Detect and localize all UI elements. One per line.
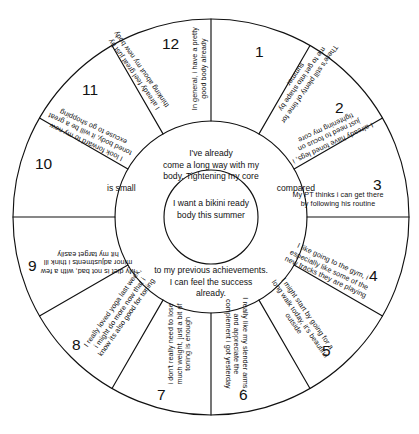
ring-top-line-2: come a long way with my (107, 160, 315, 172)
segment-number-7: 7 (157, 387, 166, 403)
segment-number-8: 8 (72, 337, 81, 353)
core-text: I want a bikini ready body this summer (166, 198, 256, 221)
ring-top-line-4-right: compared (277, 183, 315, 195)
wheel-diagram: 1 2 3 4 5 6 7 8 9 10 11 12 There's still… (0, 0, 419, 434)
ring-bottom-line-2: I can feel the success (105, 277, 317, 289)
segment-number-2: 2 (335, 100, 344, 116)
segment-number-3: 3 (373, 177, 382, 193)
segment-number-9: 9 (28, 258, 37, 274)
ring-top-line-4-left: is small (107, 183, 136, 195)
ring-bottom-line-1: to my previous achievements. (105, 265, 317, 277)
ring-bottom-text: to my previous achievements. I can feel … (105, 265, 317, 300)
segment-number-11: 11 (82, 82, 98, 98)
segment-number-12: 12 (162, 36, 179, 52)
ring-bottom-line-3: already. (105, 288, 317, 300)
segment-number-4: 4 (369, 268, 378, 284)
segment-number-5: 5 (322, 343, 331, 359)
ring-top-line-1: I've already (107, 148, 315, 160)
ring-top-text: I've already come a long way with my bod… (107, 148, 315, 194)
segment-number-10: 10 (35, 156, 52, 172)
segment-number-1: 1 (255, 44, 264, 60)
ring-top-line-3: body. Tightening my core (107, 171, 315, 183)
segment-number-6: 6 (239, 387, 248, 403)
